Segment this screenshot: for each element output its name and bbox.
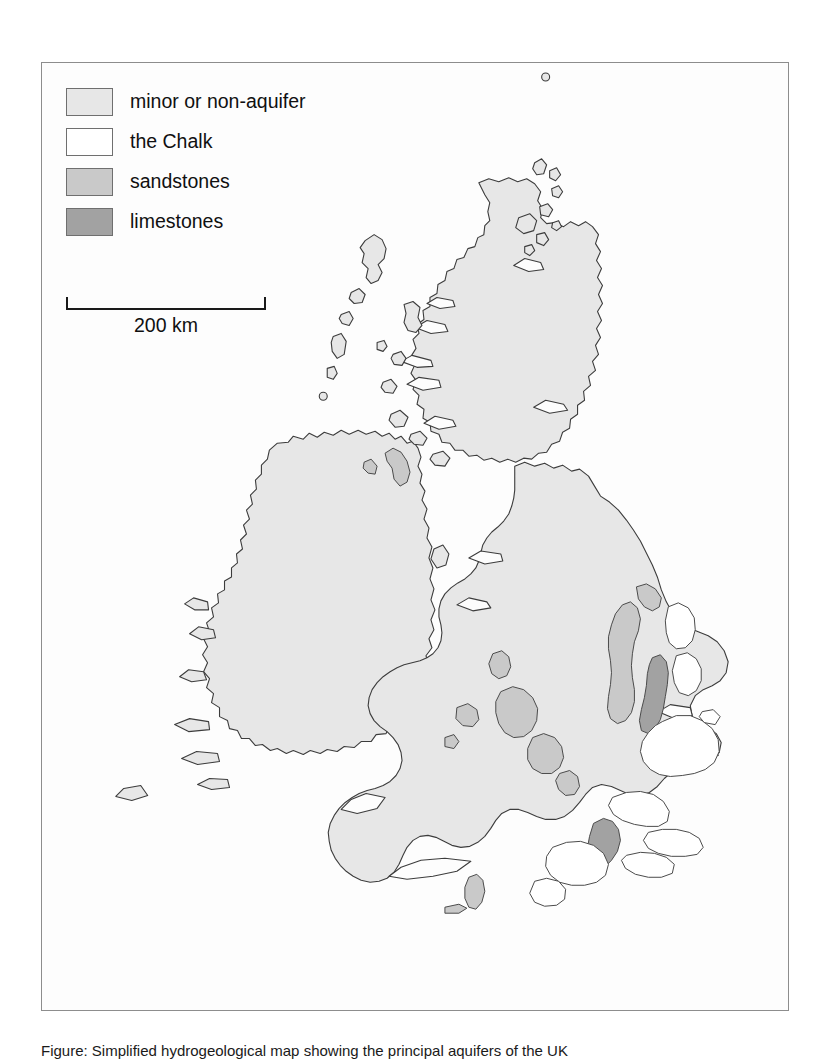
legend-label-minor-or-non-aquifer: minor or non-aquifer [130, 92, 306, 112]
scale-bar: 200 km [66, 297, 266, 336]
scale-bar-graphic [66, 297, 266, 311]
region-outer-hebrides[interactable] [319, 235, 386, 401]
swatch-limestones [66, 208, 113, 236]
region-scotland-mainland[interactable] [401, 178, 602, 462]
swatch-minor-or-non-aquifer [66, 88, 113, 116]
swatch-sandstones [66, 168, 113, 196]
region-isle-of-man[interactable] [431, 545, 449, 568]
figure-caption: Figure: Simplified hydrogeological map s… [41, 1041, 789, 1061]
legend-item-minor-or-non-aquifer[interactable]: minor or non-aquifer [66, 86, 326, 117]
region-shetland[interactable] [533, 73, 561, 181]
legend-item-limestones[interactable]: limestones [66, 206, 326, 237]
figure-frame: minor or non-aquifer the Chalk sandstone… [41, 62, 789, 1011]
map-legend: minor or non-aquifer the Chalk sandstone… [66, 86, 326, 246]
legend-label-the-chalk: the Chalk [130, 132, 212, 152]
scale-bar-label: 200 km [66, 315, 266, 336]
scale-bar-tick-right [264, 297, 266, 310]
region-ireland[interactable] [116, 430, 435, 800]
legend-label-limestones: limestones [130, 212, 223, 232]
legend-label-sandstones: sandstones [130, 172, 230, 192]
legend-item-the-chalk[interactable]: the Chalk [66, 126, 326, 157]
swatch-the-chalk [66, 128, 113, 156]
scale-bar-line [66, 308, 266, 310]
legend-item-sandstones[interactable]: sandstones [66, 166, 326, 197]
